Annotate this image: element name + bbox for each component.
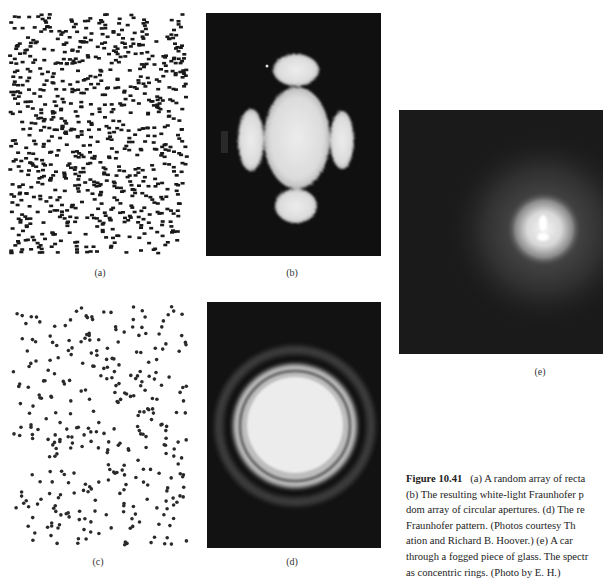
panel-c-circular-apertures	[8, 302, 189, 548]
circle-dot-array	[8, 302, 189, 548]
panel-a-rectangular-apertures	[8, 13, 189, 256]
caption-line: ation and Richard B. Hoover.) (e) A car	[406, 533, 603, 549]
panel-b-label: (b)	[286, 267, 298, 278]
caption-line: as concentric rings. (Photo by E. H.)	[406, 565, 603, 580]
panel-e-label: (e)	[534, 366, 545, 377]
caption-line: (b) The resulting white-light Fraunhofer…	[406, 487, 603, 503]
cross-diffraction-pattern	[206, 13, 381, 256]
caption-line: through a fogged piece of glass. The spe…	[406, 549, 603, 565]
caption-line: dom array of circular apertures. (d) The…	[406, 502, 603, 518]
panel-d-fraunhofer-circles	[207, 302, 381, 548]
panel-d-label: (d)	[286, 556, 298, 567]
figure-number: Figure 10.41	[406, 473, 462, 484]
panel-e-candle-fogged-glass	[399, 110, 603, 354]
figure-caption: Figure 10.41(a) A random array of recta …	[406, 471, 603, 580]
panel-c-label: (c)	[92, 556, 103, 567]
rectangle-dot-array	[8, 13, 189, 256]
panel-a-label: (a)	[94, 267, 105, 278]
caption-line: (a) A random array of recta	[470, 473, 585, 484]
panel-b-fraunhofer-rectangles	[206, 13, 381, 256]
caption-line: Fraunhofer pattern. (Photos courtesy Th	[406, 518, 603, 534]
candle-glow	[399, 110, 603, 354]
ring-diffraction-pattern	[207, 302, 381, 548]
